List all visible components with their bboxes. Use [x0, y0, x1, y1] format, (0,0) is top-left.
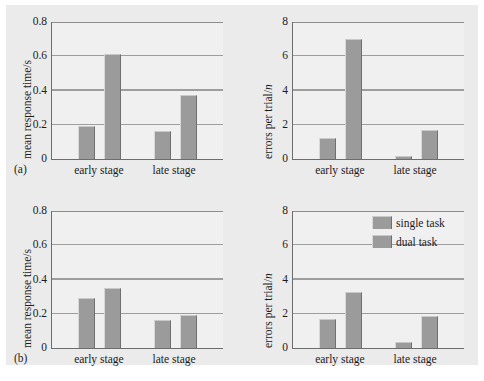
y-tick-label: 8 [282, 205, 288, 217]
x-tick-label: early stage [300, 353, 380, 365]
panel-label-a: (a) [14, 163, 27, 175]
legend-label-single-task: single task [396, 217, 445, 229]
plot-top-border [293, 211, 464, 212]
legend-item-single-task: single task [372, 215, 445, 230]
bar-panel-b-errors-late-stage-single-task [395, 342, 412, 348]
legend-label-dual-task: dual task [396, 236, 437, 248]
legend: single task dual task [372, 215, 445, 253]
bar-panel-b-errors-late-stage-dual-task [421, 316, 438, 348]
y-tick-label: 4 [282, 274, 288, 286]
x-tick-label: late stage [375, 353, 455, 365]
y-axis-label-panel-b-errors: errors per trial/n [262, 273, 274, 348]
panel-label-b: (b) [14, 352, 27, 364]
gridline [293, 278, 464, 279]
y-tick-label: 0 [282, 342, 288, 354]
gridline [293, 313, 464, 314]
y-tick-label: 2 [282, 308, 288, 320]
bar-panel-b-errors-early-stage-dual-task [345, 292, 362, 349]
bar-panel-b-errors-early-stage-single-task [319, 319, 336, 348]
legend-swatch-dual-task [372, 235, 392, 248]
legend-item-dual-task: dual task [372, 234, 445, 249]
figure-root: 00.20.40.60.8early stagelate stagemean r… [0, 0, 484, 381]
legend-swatch-single-task [372, 216, 392, 229]
chart-panel-panel-b-errors: 02468early stagelate stageerrors per tri… [0, 0, 484, 381]
y-tick-label: 6 [282, 239, 288, 251]
